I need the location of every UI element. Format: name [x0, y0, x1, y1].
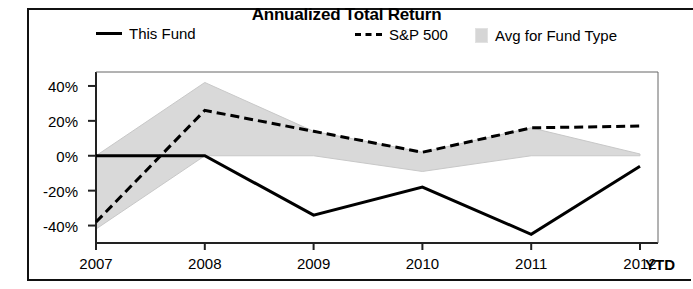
- x-axis-ytd-label: YTD: [645, 256, 675, 273]
- y-axis-tick-label: 40%: [18, 79, 78, 94]
- plot-area: [0, 0, 693, 289]
- x-axis-tick-label: 2011: [501, 256, 561, 271]
- y-axis-tick-label: 20%: [18, 114, 78, 129]
- chart-root: Annualized Total Return This Fund S&P 50…: [0, 0, 693, 289]
- x-axis-tick-label: 2009: [284, 256, 344, 271]
- y-axis-tick-label: -20%: [18, 184, 78, 199]
- y-axis-tick-label: -40%: [18, 219, 78, 234]
- y-axis-tick-label: 0%: [18, 149, 78, 164]
- plot-svg: [0, 0, 693, 289]
- x-axis-tick-label: 2007: [66, 256, 126, 271]
- x-axis-tick-label: 2008: [175, 256, 235, 271]
- x-axis-tick-label: 2010: [392, 256, 452, 271]
